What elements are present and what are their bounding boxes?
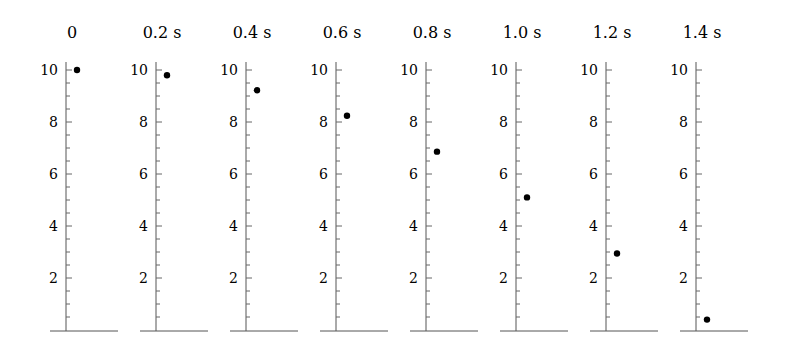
ball-marker: [434, 148, 440, 154]
tick-label: 10: [220, 62, 238, 78]
tick-label: 6: [589, 166, 598, 182]
tick-label: 6: [139, 166, 148, 182]
tick-label: 8: [589, 114, 598, 130]
tick-label: 6: [49, 166, 58, 182]
tick-label: 4: [229, 218, 238, 234]
tick-label: 2: [139, 270, 148, 286]
tick-label: 2: [229, 270, 238, 286]
tick-label: 10: [130, 62, 148, 78]
panel-title: 0.6 s: [323, 23, 362, 42]
ball-marker: [704, 316, 710, 322]
tick-label: 6: [319, 166, 328, 182]
tick-label: 10: [310, 62, 328, 78]
tick-label: 4: [139, 218, 148, 234]
tick-label: 8: [679, 114, 688, 130]
ball-marker: [164, 72, 170, 78]
panel-4: 0.8 s246810: [400, 23, 478, 331]
tick-label: 2: [49, 270, 58, 286]
tick-label: 10: [580, 62, 598, 78]
panel-title: 0: [67, 23, 77, 42]
tick-label: 8: [319, 114, 328, 130]
tick-label: 4: [409, 218, 418, 234]
panel-6: 1.2 s246810: [580, 23, 658, 331]
ball-marker: [344, 113, 350, 119]
tick-label: 4: [499, 218, 508, 234]
panel-1: 0.2 s246810: [130, 23, 208, 331]
ball-marker: [524, 194, 530, 200]
panel-5: 1.0 s246810: [490, 23, 568, 331]
tick-label: 4: [319, 218, 328, 234]
panel-title: 1.2 s: [593, 23, 632, 42]
panel-0: 0246810: [40, 23, 118, 331]
tick-label: 8: [409, 114, 418, 130]
tick-label: 4: [679, 218, 688, 234]
tick-label: 8: [229, 114, 238, 130]
tick-label: 6: [499, 166, 508, 182]
panel-title: 0.4 s: [233, 23, 272, 42]
tick-label: 6: [409, 166, 418, 182]
falling-ball-diagram: 02468100.2 s2468100.4 s2468100.6 s246810…: [0, 0, 786, 354]
panel-title: 1.4 s: [683, 23, 722, 42]
tick-label: 10: [490, 62, 508, 78]
panel-title: 1.0 s: [503, 23, 542, 42]
panel-2: 0.4 s246810: [220, 23, 298, 331]
tick-label: 10: [670, 62, 688, 78]
panel-title: 0.2 s: [143, 23, 182, 42]
tick-label: 10: [40, 62, 58, 78]
panel-title: 0.8 s: [413, 23, 452, 42]
ball-marker: [254, 87, 260, 93]
tick-label: 6: [229, 166, 238, 182]
tick-label: 10: [400, 62, 418, 78]
panel-7: 1.4 s246810: [670, 23, 748, 331]
tick-label: 6: [679, 166, 688, 182]
ball-marker: [74, 67, 80, 73]
tick-label: 8: [139, 114, 148, 130]
tick-label: 2: [409, 270, 418, 286]
tick-label: 2: [499, 270, 508, 286]
tick-label: 2: [679, 270, 688, 286]
tick-label: 4: [49, 218, 58, 234]
tick-label: 2: [589, 270, 598, 286]
tick-label: 4: [589, 218, 598, 234]
tick-label: 8: [49, 114, 58, 130]
tick-label: 2: [319, 270, 328, 286]
tick-label: 8: [499, 114, 508, 130]
ball-marker: [614, 250, 620, 256]
panel-3: 0.6 s246810: [310, 23, 388, 331]
